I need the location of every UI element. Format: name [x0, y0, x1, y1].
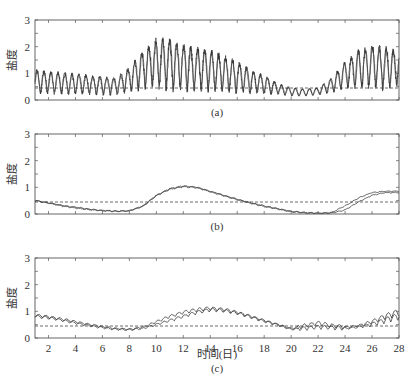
panel-b: 0123盐度(b): [5, 128, 399, 233]
panel-label: (a): [211, 106, 224, 119]
x-tick-label: 2: [46, 342, 52, 354]
salinity-figure: 0123盐度(a)0123盐度(b)2468101214161820222426…: [0, 0, 414, 380]
y-tick-label: 3: [25, 14, 31, 26]
x-tick-label: 24: [340, 342, 352, 354]
y-tick-label: 0: [25, 208, 31, 220]
y-tick-label: 1: [25, 305, 31, 317]
x-tick-label: 26: [367, 342, 379, 354]
x-tick-label: 28: [394, 342, 406, 354]
panel-a: 0123盐度(a): [5, 14, 399, 119]
y-tick-label: 0: [25, 332, 31, 344]
x-tick-label: 8: [127, 342, 133, 354]
y-axis-label: 盐度: [5, 49, 18, 71]
x-tick-label: 10: [151, 342, 163, 354]
y-tick-label: 0: [25, 94, 31, 106]
x-tick-label: 20: [286, 342, 298, 354]
x-tick-label: 12: [178, 342, 189, 354]
y-tick-label: 2: [25, 41, 31, 53]
y-axis-label: 盐度: [5, 287, 18, 309]
y-tick-label: 3: [25, 128, 31, 140]
x-tick-label: 22: [313, 342, 324, 354]
salinity-line-2: [35, 186, 399, 214]
salinity-line-2: [35, 308, 399, 331]
y-tick-label: 2: [25, 155, 31, 167]
y-tick-label: 1: [25, 67, 31, 79]
x-tick-label: 18: [259, 342, 271, 354]
panel-label: (c): [211, 362, 224, 375]
x-tick-label: 4: [73, 342, 79, 354]
y-tick-label: 1: [25, 181, 31, 193]
panel-label: (b): [211, 220, 224, 233]
x-tick-label: 6: [100, 342, 106, 354]
y-tick-label: 2: [25, 279, 31, 291]
y-axis-label: 盐度: [5, 163, 18, 185]
x-axis-label: 时间(日): [197, 348, 238, 361]
y-tick-label: 3: [25, 252, 31, 264]
